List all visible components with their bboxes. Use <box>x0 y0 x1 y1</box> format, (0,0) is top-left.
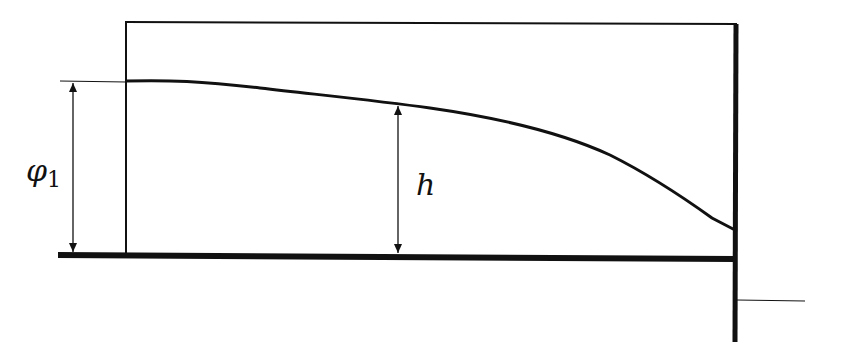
h-symbol: h <box>416 167 435 202</box>
phi-symbol: φ <box>26 153 47 188</box>
h-label: h <box>416 170 435 200</box>
upstream-level-line <box>60 81 126 82</box>
tailwater-level-line <box>737 300 805 301</box>
impermeable-base <box>58 255 734 259</box>
phi-subscript: 1 <box>47 167 61 192</box>
top-boundary <box>126 22 737 24</box>
phi1-label: φ1 <box>26 156 61 191</box>
right-wall <box>735 24 736 342</box>
free-surface-curve <box>126 81 735 230</box>
